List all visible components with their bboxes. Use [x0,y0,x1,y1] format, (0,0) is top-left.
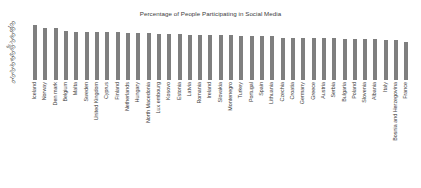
bar[interactable] [188,35,192,80]
bar-slot[interactable] [319,21,329,80]
bar[interactable] [301,38,305,80]
bar[interactable] [167,34,171,80]
bar-slot[interactable] [143,21,153,80]
x-axis-tick: Turkey [236,82,246,188]
bar-slot[interactable] [205,21,215,80]
bar[interactable] [312,38,316,80]
bar[interactable] [198,35,202,80]
bar[interactable] [43,28,47,81]
x-axis-tick: France [401,82,411,188]
x-axis-tick: Czechia [278,82,288,188]
x-axis-tick: Portugal [247,82,257,188]
bar-slot[interactable] [30,21,40,80]
bar[interactable] [219,35,223,80]
bar-slot[interactable] [329,21,339,80]
x-axis: IcelandNorwayDen markBelgiumMaltaSwedenU… [30,82,412,188]
bar-slot[interactable] [154,21,164,80]
bar-slot[interactable] [174,21,184,80]
y-axis-tick-label: 0 [11,79,17,85]
bar-slot[interactable] [123,21,133,80]
x-axis-tick-label: United Kingdom [94,82,99,120]
bar[interactable] [343,39,347,80]
bar[interactable] [281,38,285,80]
bar[interactable] [332,38,336,80]
page-title: Percentage of People Participating in So… [0,10,421,17]
bar-slot[interactable] [370,21,380,80]
x-axis-tick: Norway [40,82,50,188]
x-axis-tick-label: Serbia [332,82,337,98]
bar-slot[interactable] [133,21,143,80]
bar[interactable] [373,39,377,80]
bar-slot[interactable] [288,21,298,80]
x-axis-tick-label: Croatia [290,82,295,99]
bar[interactable] [126,33,130,80]
bar[interactable] [105,32,109,80]
bar-slot[interactable] [339,21,349,80]
x-axis-tick-label: Greece [311,82,316,100]
bar-slot[interactable] [216,21,226,80]
bar-slot[interactable] [267,21,277,80]
bar-slot[interactable] [257,21,267,80]
bar[interactable] [136,33,140,80]
bar[interactable] [178,34,182,80]
bar-slot[interactable] [51,21,61,80]
bar[interactable] [384,40,388,80]
bar[interactable] [322,38,326,80]
bar[interactable] [85,32,89,80]
bar-slot[interactable] [391,21,401,80]
bar-slot[interactable] [308,21,318,80]
bar[interactable] [353,39,357,80]
bar[interactable] [147,33,151,80]
x-axis-tick: Bulgaria [339,82,349,188]
bar-slot[interactable] [278,21,288,80]
x-axis-tick: North Macedonia [143,82,153,188]
x-axis-tick: Finland [113,82,123,188]
bar-slot[interactable] [247,21,257,80]
bar-slot[interactable] [185,21,195,80]
bar-slot[interactable] [92,21,102,80]
bar[interactable] [33,25,37,80]
bar[interactable] [260,36,264,80]
x-axis-tick: Montenegro [226,82,236,188]
x-axis-tick: Albania [370,82,380,188]
bar[interactable] [270,36,274,80]
bar[interactable] [74,32,78,80]
bar[interactable] [64,31,68,80]
bar-slot[interactable] [381,21,391,80]
bar-slot[interactable] [350,21,360,80]
bar[interactable] [239,36,243,80]
bar[interactable] [291,38,295,80]
bar-slot[interactable] [71,21,81,80]
bar[interactable] [229,35,233,80]
bar-slot[interactable] [82,21,92,80]
bar[interactable] [250,36,254,80]
x-axis-tick-label: Czechia [280,82,285,101]
x-axis-tick: Slovakia [216,82,226,188]
bar-slot[interactable] [401,21,411,80]
bar[interactable] [116,32,120,80]
x-axis-tick-label: Spain [259,82,264,96]
bar[interactable] [363,39,367,80]
bar[interactable] [208,35,212,80]
bar-slot[interactable] [236,21,246,80]
x-axis-tick-label: Sweden [84,82,89,101]
x-axis-tick: Sweden [82,82,92,188]
bar-slot[interactable] [226,21,236,80]
bar-slot[interactable] [40,21,50,80]
bar[interactable] [157,34,161,80]
bar[interactable] [54,28,58,80]
x-axis-tick: Latvia [185,82,195,188]
bar-slot[interactable] [164,21,174,80]
bar[interactable] [404,42,408,80]
bar[interactable] [394,40,398,80]
bar-slot[interactable] [61,21,71,80]
bar-slot[interactable] [113,21,123,80]
bar-slot[interactable] [102,21,112,80]
x-axis-tick-label: Bulgaria [342,82,347,102]
bar-slot[interactable] [360,21,370,80]
bar[interactable] [95,32,99,80]
x-axis-tick-label: Belgium [63,82,68,101]
bar-slot[interactable] [298,21,308,80]
bar-slot[interactable] [195,21,205,80]
x-axis-tick-label: Slovakia [218,82,223,102]
